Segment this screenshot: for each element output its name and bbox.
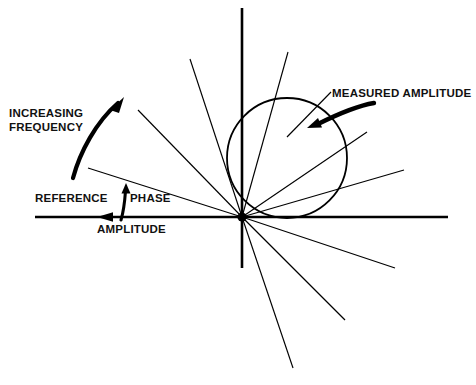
label-amplitude: AMPLITUDE [97,223,166,237]
radial-vector-7 [242,217,395,268]
reference-axis-arrowhead [97,212,113,222]
radial-vector-5 [242,132,367,217]
figure-canvas: INCREASING FREQUENCY REFERENCE PHASE AMP… [0,0,476,385]
origin-node [237,212,246,221]
radial-vector-9 [242,217,293,368]
label-reference: REFERENCE [35,192,108,206]
label-phase: PHASE [130,192,171,206]
radial-vector-8 [242,217,345,320]
radial-vector-6 [242,170,404,217]
label-measured-amplitude: MEASURED AMPLITUDE [332,87,471,101]
label-increasing-frequency: INCREASING FREQUENCY [9,107,83,134]
radial-vector-4 [242,52,288,217]
radial-vector-3 [190,59,242,217]
